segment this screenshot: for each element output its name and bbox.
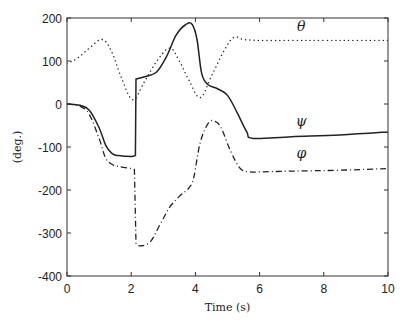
y-tick-label: 200: [42, 12, 62, 26]
series-psi-line: [67, 23, 388, 157]
axes: [67, 18, 388, 276]
y-tick-label: -100: [38, 141, 62, 155]
y-tick-label: -400: [38, 270, 62, 284]
x-tick-label: 10: [381, 282, 395, 296]
y-tick-label: 0: [55, 98, 62, 112]
y-tick-label: -300: [38, 227, 62, 241]
x-tick-label: 2: [128, 282, 135, 296]
series-label-theta: θ: [297, 18, 306, 34]
x-tick-label: 6: [256, 282, 263, 296]
x-tick-label: 8: [320, 282, 327, 296]
line-chart: 02468102001000-100-200-300-400Time (s)(d…: [0, 0, 409, 322]
x-axis-title: Time (s): [205, 301, 251, 314]
plot-frame: [67, 18, 388, 276]
y-tick-label: -200: [38, 184, 62, 198]
y-axis-title: (deg.): [11, 131, 24, 164]
series-label-psi: ψ: [296, 113, 308, 129]
series-label-phi: φ: [296, 145, 306, 161]
labels: 02468102001000-100-200-300-400Time (s)(d…: [11, 12, 395, 315]
series-phi-line: [67, 104, 388, 246]
y-tick-label: 100: [42, 55, 62, 69]
series-theta-line: [67, 37, 388, 100]
x-tick-label: 4: [192, 282, 199, 296]
x-tick-label: 0: [64, 282, 71, 296]
plot-area: [67, 23, 388, 246]
